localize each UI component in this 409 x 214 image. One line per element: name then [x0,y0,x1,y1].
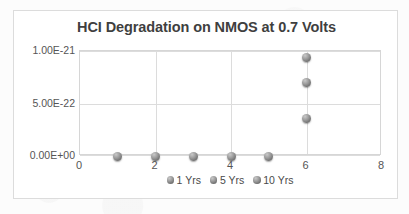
x-axis-tick-label: 0 [76,159,82,171]
legend-marker-icon [167,176,175,184]
chart-container: HCI Degradation on NMOS at 0.7 Volts 0.0… [13,10,398,199]
screenshot-canvas: HCI Degradation on NMOS at 0.7 Volts 0.0… [0,0,409,214]
x-axis-tick-label: 6 [302,159,308,171]
x-axis-tick-label: 2 [151,159,157,171]
y-axis-tick-label: 1.00E-21 [32,44,75,56]
gridline-vertical [231,51,232,154]
y-axis-tick-label: 0.00E+00 [30,149,75,161]
data-point-marker [302,78,311,87]
y-axis-tick-label: 5.00E-22 [32,97,75,109]
chart-legend: 1 Yrs5 Yrs10 Yrs [79,174,381,186]
legend-marker-icon [253,176,261,184]
y-axis-tick-labels: 0.00E+005.00E-221.00E-21 [14,50,75,155]
gridline-vertical [156,51,157,154]
gridline-vertical [307,51,308,154]
x-axis-tick-label: 4 [227,159,233,171]
chart-title: HCI Degradation on NMOS at 0.7 Volts [14,19,399,35]
gridline-horizontal [80,51,380,52]
legend-label: 1 Yrs [177,174,201,186]
gridline-horizontal [80,104,380,105]
legend-marker-icon [210,176,218,184]
plot-area [79,50,381,155]
x-axis-tick-labels: 02468 [79,159,381,175]
legend-entry[interactable]: 10 Yrs [253,174,293,186]
data-point-marker [302,53,311,62]
legend-entry[interactable]: 1 Yrs [167,174,201,186]
data-point-marker [302,114,311,123]
legend-label: 10 Yrs [263,174,293,186]
x-axis-tick-label: 8 [378,159,384,171]
legend-label: 5 Yrs [220,174,244,186]
legend-entry[interactable]: 5 Yrs [210,174,244,186]
